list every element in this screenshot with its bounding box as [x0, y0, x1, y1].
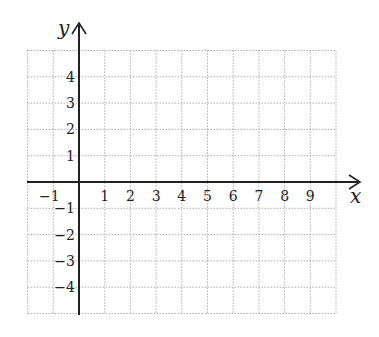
x-tick-label: 3: [152, 188, 161, 204]
y-tick-label: −3: [54, 253, 75, 269]
axes: [27, 23, 360, 315]
y-tick-label: 2: [66, 121, 75, 137]
x-tick-label: 8: [280, 188, 289, 204]
y-tick-label: −2: [54, 227, 75, 243]
y-tick-label: −1: [54, 200, 75, 216]
x-tick-label: 4: [177, 188, 186, 204]
y-tick-label: −4: [54, 279, 75, 295]
x-tick-label: 9: [306, 188, 315, 204]
x-tick-label: 5: [203, 188, 212, 204]
x-tick-label: 1: [100, 188, 109, 204]
y-axis-label: y: [57, 16, 70, 40]
x-tick-label: 2: [126, 188, 135, 204]
y-tick-label: 3: [66, 95, 75, 111]
x-tick-label: 7: [254, 188, 263, 204]
coordinate-plane: −11234567894321−1−2−3−4 x y: [0, 0, 379, 337]
y-tick-label: 1: [66, 148, 75, 164]
y-tick-label: 4: [66, 69, 75, 85]
x-axis-label: x: [350, 184, 361, 208]
x-tick-label: 6: [229, 188, 238, 204]
